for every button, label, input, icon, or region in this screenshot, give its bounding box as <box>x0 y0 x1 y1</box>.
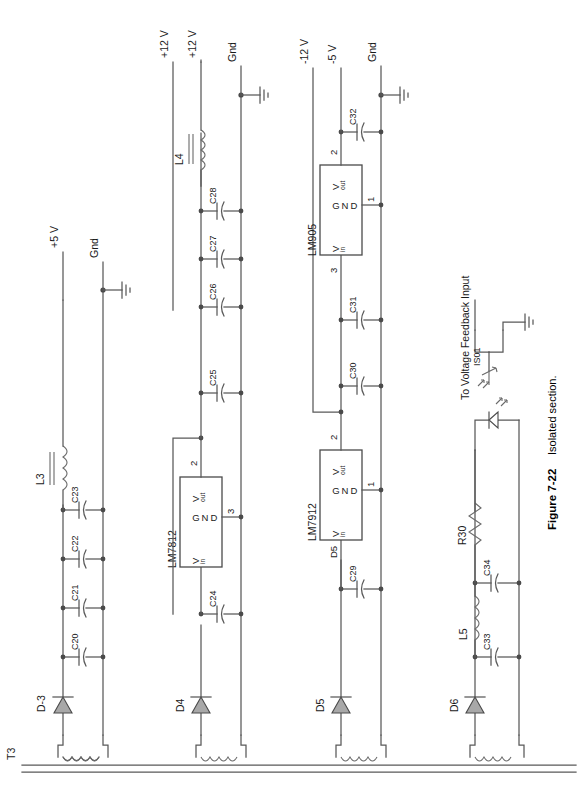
rail-label-plus5v: +5 V <box>48 226 60 248</box>
capacitor-c33-label: C33 <box>482 633 492 650</box>
diode-d6-label: D6 <box>448 698 460 712</box>
regulator-lm905-vout-sub: out <box>339 180 346 190</box>
regulator-lm905-vin-sub: in <box>339 246 346 252</box>
diode-d5-label: D5 <box>314 698 326 712</box>
regulator-lm905-gnd-d: D <box>351 200 358 211</box>
regulator-lm7812-gnd-n: N <box>202 512 209 523</box>
ground-symbol-3 <box>378 66 408 103</box>
regulator-lm7912-vin-sub: in <box>339 531 346 537</box>
rail-label-plus12v-a: +12 V <box>158 30 170 58</box>
capacitor-c23 <box>61 501 106 519</box>
capacitor-c34 <box>473 574 522 592</box>
section-5v: D-3 C20 C21 <box>34 226 130 761</box>
capacitor-c23-label: C23 <box>70 486 80 503</box>
winding-secondary-3 <box>336 735 386 761</box>
diode-d5 <box>331 697 351 713</box>
capacitor-c21 <box>61 599 106 617</box>
optocoupler-label: IS01 <box>472 347 482 366</box>
capacitor-c31-label: C31 <box>348 296 358 313</box>
transformer-label: T3 <box>5 748 17 760</box>
capacitor-c32 <box>339 123 384 141</box>
regulator-lm905-gnd-n: N <box>342 200 349 211</box>
capacitor-c29 <box>339 580 384 598</box>
figure-caption: Figure 7-22 Isolated section. <box>546 376 558 531</box>
transformer-core <box>22 765 576 772</box>
figure-number: Figure 7-22 <box>546 469 558 530</box>
regulator-lm7912-gnd-n: N <box>342 485 349 496</box>
figure-page: T3 D-3 <box>0 0 588 808</box>
inductor-l5-label: L5 <box>457 628 469 640</box>
rail-label-plus12v-b: +12 V <box>186 30 198 58</box>
capacitor-c27-label: C27 <box>208 235 218 252</box>
regulator-lm7812-vout-sub: out <box>199 492 206 502</box>
regulator-lm905-label: LM905 <box>306 224 318 256</box>
diode-d4-label: D4 <box>174 698 186 712</box>
capacitor-c30-label: C30 <box>348 362 358 379</box>
schematic-diagram: T3 D-3 <box>0 0 588 808</box>
rail-label-minus12v: -12 V <box>298 39 310 64</box>
ground-symbol-1 <box>100 262 130 298</box>
inductor-l3-label: L3 <box>34 473 46 485</box>
winding-secondary-4 <box>470 735 524 761</box>
figure-caption-text: Isolated section. <box>546 376 558 456</box>
regulator-lm905-pin3: 3 <box>328 268 339 273</box>
winding-secondary-1 <box>58 735 108 761</box>
regulator-lm7812-pin2: 2 <box>188 461 199 466</box>
regulator-lm7912-gnd-d: D <box>351 485 358 496</box>
capacitor-c26-label: C26 <box>208 283 218 300</box>
regulator-lm7912-pin3: D5 <box>328 546 339 558</box>
capacitor-c25-label: C25 <box>208 369 218 386</box>
regulator-lm7912-pin1: 1 <box>365 482 376 487</box>
regulator-lm7912-pin2: 2 <box>328 435 339 440</box>
section-feedback: D6 C33 L5 <box>448 276 533 761</box>
capacitor-c29-label: C29 <box>348 565 358 582</box>
resistor-r30-label: R30 <box>456 526 468 545</box>
capacitor-c26 <box>199 298 244 316</box>
capacitor-c24 <box>199 605 244 623</box>
regulator-lm905-pin2: 2 <box>328 150 339 155</box>
inductor-l4-label: L4 <box>173 153 185 165</box>
capacitor-c20-label: C20 <box>70 633 80 650</box>
diode-d6 <box>465 697 485 713</box>
rail-label-gnd-3: Gnd <box>366 42 378 62</box>
ground-symbol-4 <box>503 314 533 330</box>
ground-symbol-2 <box>238 66 268 103</box>
diode-d4 <box>191 697 211 713</box>
inductor-l4 <box>189 62 205 186</box>
regulator-lm7812-pin3: 3 <box>225 509 236 514</box>
capacitor-c33 <box>473 648 522 666</box>
regulator-lm905-pin1: 1 <box>365 197 376 202</box>
capacitor-c21-label: C21 <box>70 584 80 601</box>
regulator-lm7912-gnd-g: G <box>332 485 339 496</box>
winding-secondary-2 <box>196 735 246 761</box>
rail-label-gnd-2: Gnd <box>226 42 238 62</box>
rail-label-minus5v: -5 V <box>326 45 338 64</box>
regulator-lm7912-label: LM7912 <box>306 503 318 541</box>
section-12v: D4 C24 LM7812 V in V out G N <box>158 30 268 761</box>
capacitor-c22 <box>61 550 106 568</box>
capacitor-c31 <box>339 311 384 329</box>
capacitor-c27 <box>199 250 244 268</box>
diode-d3 <box>53 697 73 713</box>
feedback-note: To Voltage Feedback Input <box>459 276 471 400</box>
diode-d3-label: D-3 <box>35 695 47 712</box>
capacitor-c22-label: C22 <box>70 535 80 552</box>
optocoupler-led <box>489 398 507 428</box>
capacitor-c28-label: C28 <box>208 187 218 204</box>
regulator-lm905-gnd-g: G <box>332 200 339 211</box>
regulator-lm7912-vout-sub: out <box>339 465 346 475</box>
capacitor-c32-label: C32 <box>348 108 358 125</box>
capacitor-c25 <box>199 384 244 402</box>
regulator-lm7812-gnd-g: G <box>192 512 199 523</box>
regulator-lm7812-vin-sub: in <box>199 558 206 564</box>
regulator-lm7812-label: LM7812 <box>166 530 178 568</box>
capacitor-c28 <box>199 202 244 220</box>
capacitor-c24-label: C24 <box>208 590 218 607</box>
regulator-lm7812-gnd-d: D <box>211 512 218 523</box>
capacitor-c20 <box>61 648 106 666</box>
section-neg12v: D5 C29 LM7912 V in V out G N D D5 <box>298 39 408 761</box>
inductor-l3 <box>50 300 67 510</box>
rail-label-gnd-1: Gnd <box>88 238 100 258</box>
capacitor-c34-label: C34 <box>482 559 492 576</box>
capacitor-c30 <box>339 377 384 395</box>
